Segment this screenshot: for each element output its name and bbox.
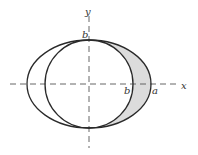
- diagram-canvas: y x b b a: [0, 0, 198, 155]
- circle: [45, 40, 133, 128]
- label-b-top: b: [82, 29, 88, 40]
- x-axis-label: x: [181, 80, 187, 91]
- label-b-right: b: [124, 85, 130, 96]
- y-axis-label: y: [84, 6, 91, 17]
- label-a-right: a: [152, 85, 158, 96]
